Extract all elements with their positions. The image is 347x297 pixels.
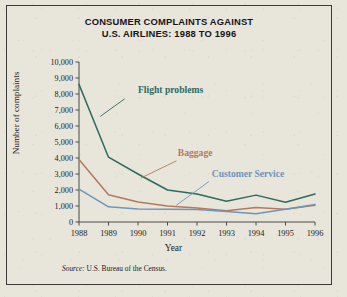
y-tick-label: 8,000 — [55, 90, 73, 99]
x-tick-label: 1990 — [130, 229, 147, 238]
y-tick-label: 3,000 — [55, 170, 73, 179]
x-tick-label: 1993 — [218, 229, 235, 238]
y-tick-label: 10,000 — [50, 58, 73, 67]
y-tick-label: 5,000 — [55, 138, 73, 147]
x-tick-label: 1995 — [277, 229, 294, 238]
chart-figure: CONSUMER COMPLAINTS AGAINST U.S. AIRLINE… — [0, 0, 347, 297]
y-tick-label: 9,000 — [55, 74, 73, 83]
x-tick-label: 1991 — [159, 229, 176, 238]
y-tick-label: 1,000 — [55, 202, 73, 211]
source-text: U.S. Bureau of the Census. — [87, 264, 167, 273]
y-tick-label: 0 — [69, 218, 73, 227]
y-tick-label: 6,000 — [55, 122, 73, 131]
x-tick-label: 1989 — [100, 229, 117, 238]
x-tick-label: 1996 — [307, 229, 324, 238]
series-label-0: Flight problems — [138, 84, 203, 95]
x-axis-label: Year — [0, 243, 347, 253]
source-prefix: Source: — [62, 264, 85, 273]
y-tick-label: 2,000 — [55, 186, 73, 195]
y-axis-label: Number of complaints — [11, 65, 21, 161]
series-line-0 — [79, 84, 315, 202]
series-label-1: Baggage — [178, 147, 213, 158]
series-leader-2 — [176, 182, 208, 206]
series-leader-0 — [100, 99, 124, 117]
y-tick-label: 4,000 — [55, 154, 73, 163]
x-tick-label: 1994 — [248, 229, 266, 238]
source-note: Source: U.S. Bureau of the Census. — [62, 264, 167, 273]
y-tick-label: 7,000 — [55, 106, 73, 115]
series-leader-1 — [141, 161, 176, 178]
x-tick-label: 1988 — [71, 229, 88, 238]
series-label-2: Customer Service — [212, 168, 285, 179]
x-tick-label: 1992 — [189, 229, 206, 238]
